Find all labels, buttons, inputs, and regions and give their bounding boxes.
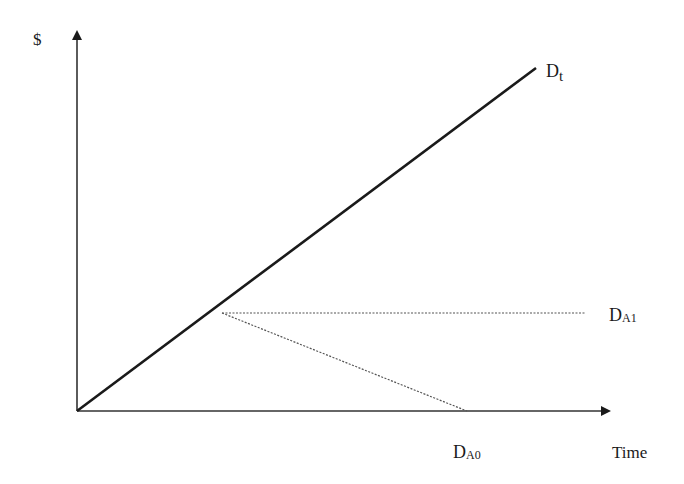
da0-label: DA0	[453, 442, 481, 462]
y-axis-label: $	[33, 30, 42, 49]
diagram-canvas: $ Dt DA1 DA0 Time	[0, 0, 684, 484]
dt-label: Dt	[546, 61, 564, 84]
da1-label: DA1	[609, 305, 637, 325]
dt-line	[77, 68, 536, 411]
x-axis-label: Time	[612, 443, 647, 462]
da0-line	[222, 313, 467, 411]
